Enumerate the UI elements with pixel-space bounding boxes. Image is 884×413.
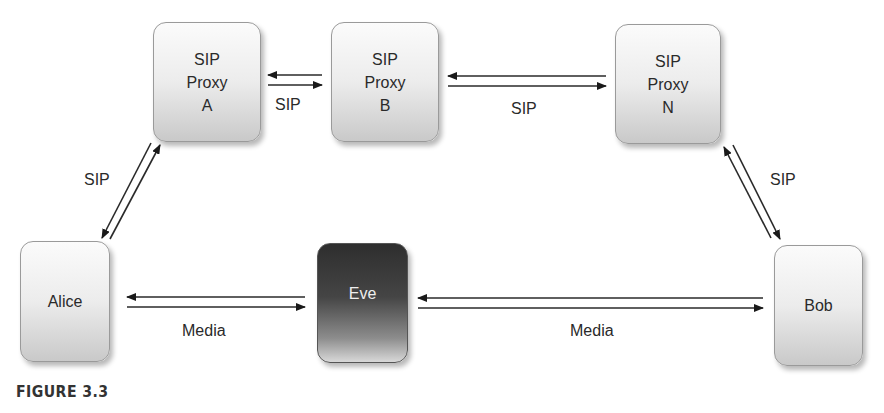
proxy-b-line-3: B [365, 94, 406, 117]
proxy-b-line-2: Proxy [365, 71, 406, 94]
edge-label-b-n: SIP [511, 100, 537, 118]
proxy-n-line-1: SIP [648, 50, 689, 73]
figure-caption: FIGURE 3.3 [16, 382, 109, 401]
connector-arrows [0, 0, 884, 413]
proxy-a-line-1: SIP [187, 48, 228, 71]
proxy-n-line-3: N [648, 96, 689, 119]
proxy-a-line-2: Proxy [187, 71, 228, 94]
edge-label-n-bob: SIP [770, 171, 796, 189]
proxy-b-line-1: SIP [365, 48, 406, 71]
sip-proxy-b-node: SIP Proxy B [331, 22, 439, 142]
proxy-a-line-3: A [187, 94, 228, 117]
edge-label-eve-bob: Media [570, 322, 614, 340]
sip-proxy-n-node: SIP Proxy N [615, 24, 721, 144]
edge-label-alice-a: SIP [84, 171, 110, 189]
edge-label-a-b: SIP [275, 96, 301, 114]
sip-proxy-a-node: SIP Proxy A [153, 22, 261, 142]
eve-label: Eve [349, 282, 377, 305]
eve-node: Eve [317, 243, 408, 363]
bob-label: Bob [804, 294, 832, 317]
alice-node: Alice [20, 241, 110, 362]
edge-label-alice-eve: Media [182, 322, 226, 340]
proxy-n-line-2: Proxy [648, 73, 689, 96]
bob-node: Bob [774, 245, 863, 366]
alice-label: Alice [48, 290, 83, 313]
